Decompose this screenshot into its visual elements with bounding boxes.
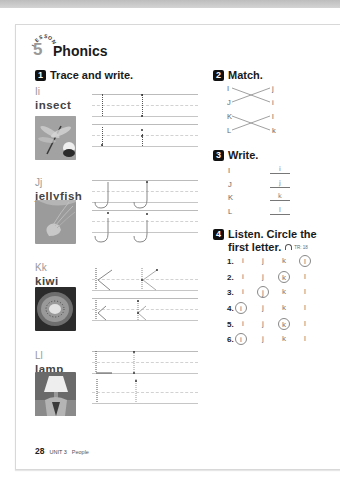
- write-answer-1[interactable]: i: [270, 165, 290, 174]
- word-item-kiwi: Kk kiwi: [35, 262, 59, 288]
- word-item-insect: Ii insect: [35, 86, 71, 112]
- write-answer-3[interactable]: k: [270, 192, 290, 201]
- option-i[interactable]: i: [237, 255, 249, 267]
- write-answer-2[interactable]: j: [270, 179, 290, 188]
- match-left-1[interactable]: I: [227, 84, 229, 93]
- unit-topic: People: [72, 449, 89, 455]
- option-j[interactable]: j: [257, 302, 269, 314]
- match-right-2[interactable]: i: [272, 98, 274, 107]
- trace-lines-i[interactable]: [92, 94, 198, 158]
- option-k-circled[interactable]: k: [278, 271, 290, 283]
- section-4-heading: 4 Listen. Circle the: [213, 228, 317, 240]
- section-4-instruction-2: first letter.: [228, 241, 281, 253]
- option-k[interactable]: k: [278, 286, 290, 298]
- question-number: 4.: [227, 304, 234, 313]
- jellyfish-photo: [35, 200, 76, 244]
- write-upper-4: L: [228, 207, 232, 216]
- letter-pair: Ii: [35, 86, 71, 98]
- section-1-badge: 1: [35, 70, 46, 81]
- option-i-circled[interactable]: i: [235, 302, 247, 314]
- question-number: 6.: [227, 335, 234, 344]
- question-number: 2.: [227, 273, 234, 282]
- option-l[interactable]: l: [299, 302, 311, 314]
- kiwi-photo: [35, 287, 76, 331]
- word-label: insect: [35, 98, 71, 112]
- page-title: Phonics: [53, 43, 107, 59]
- option-j[interactable]: j: [257, 333, 269, 345]
- write-upper-2: J: [228, 180, 232, 189]
- section-1-heading: 1 Trace and write.: [35, 69, 133, 81]
- option-i[interactable]: i: [237, 318, 249, 330]
- trace-lines-j[interactable]: [92, 180, 198, 244]
- unit-label: UNIT 3: [49, 449, 66, 455]
- page-footer: 28 UNIT 3 People: [35, 446, 89, 456]
- question-number: 5.: [227, 320, 234, 329]
- match-right-1[interactable]: j: [272, 84, 274, 93]
- letter-pair: Ll: [35, 350, 64, 362]
- option-l[interactable]: l: [299, 286, 311, 298]
- section-4-badge: 4: [213, 229, 224, 240]
- section-3-heading: 3 Write.: [213, 149, 258, 161]
- option-l-circled[interactable]: l: [299, 255, 311, 267]
- track-label: TR: 18: [294, 245, 308, 250]
- write-upper-3: K: [228, 193, 233, 202]
- question-number: 1.: [227, 257, 234, 266]
- headphones-icon[interactable]: [285, 244, 292, 250]
- dragonfly-photo: [35, 116, 76, 160]
- section-4-instruction-1: Listen. Circle the: [228, 228, 317, 240]
- option-k[interactable]: k: [278, 255, 290, 267]
- section-1-instruction: Trace and write.: [50, 69, 133, 81]
- option-j[interactable]: j: [257, 255, 269, 267]
- match-lines: [230, 86, 272, 136]
- lamp-photo: [35, 372, 76, 416]
- option-l[interactable]: l: [299, 333, 311, 345]
- question-number: 3.: [227, 288, 234, 297]
- letter-pair: Jj: [35, 177, 82, 189]
- option-j[interactable]: j: [257, 318, 269, 330]
- lesson-number: 5: [33, 40, 42, 60]
- section-2-badge: 2: [213, 70, 224, 81]
- option-i[interactable]: i: [237, 271, 249, 283]
- trace-lines-l[interactable]: [92, 351, 198, 415]
- section-2-heading: 2 Match.: [213, 69, 263, 81]
- option-l[interactable]: l: [299, 318, 311, 330]
- write-answer-4[interactable]: l: [270, 206, 290, 215]
- option-i[interactable]: i: [237, 286, 249, 298]
- section-2-instruction: Match.: [228, 69, 263, 81]
- match-right-3[interactable]: l: [272, 112, 274, 121]
- trace-lines-k[interactable]: [92, 268, 198, 332]
- option-k[interactable]: k: [278, 333, 290, 345]
- section-3-badge: 3: [213, 150, 224, 161]
- word-label: kiwi: [35, 274, 59, 288]
- write-upper-1: I: [228, 166, 230, 175]
- match-right-4[interactable]: k: [272, 126, 276, 135]
- option-k-circled[interactable]: k: [278, 318, 290, 330]
- letter-pair: Kk: [35, 262, 59, 274]
- option-j-circled[interactable]: j: [257, 286, 269, 298]
- option-l[interactable]: l: [299, 271, 311, 283]
- page-number: 28: [35, 446, 44, 456]
- top-bar: [0, 0, 340, 8]
- section-3-instruction: Write.: [228, 149, 258, 161]
- option-k[interactable]: k: [278, 302, 290, 314]
- option-j[interactable]: j: [257, 271, 269, 283]
- section-4-heading-line2: first letter. TR: 18: [228, 241, 308, 253]
- option-i-circled[interactable]: i: [235, 333, 247, 345]
